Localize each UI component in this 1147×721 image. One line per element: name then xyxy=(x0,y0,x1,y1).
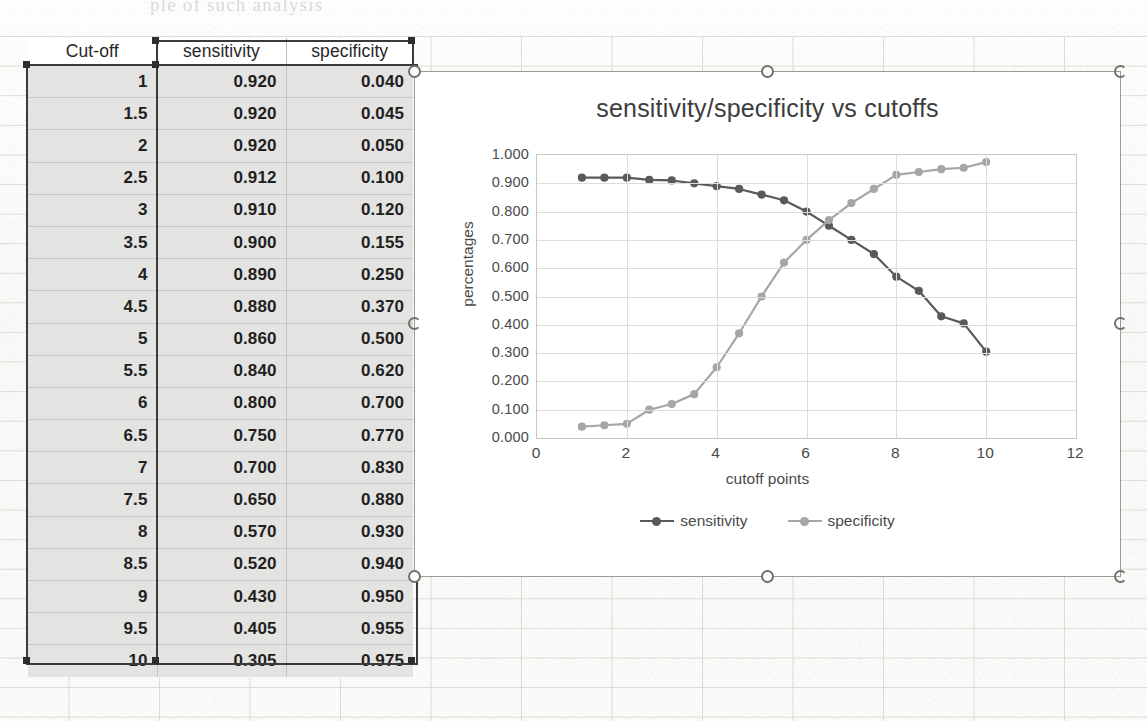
column-header-specificity[interactable]: specificity xyxy=(286,38,413,66)
cell-specificity[interactable]: 0.955 xyxy=(286,613,413,645)
cell-specificity[interactable]: 0.950 xyxy=(286,581,413,613)
cell-sensitivity[interactable]: 0.700 xyxy=(157,452,286,484)
cell-sensitivity[interactable]: 0.405 xyxy=(157,613,286,645)
column-header-cutoff[interactable]: Cut-off xyxy=(28,38,157,66)
chart-legend[interactable]: sensitivityspecificity xyxy=(415,512,1120,530)
table-row[interactable]: 40.8900.250 xyxy=(28,259,413,291)
cell-cutoff[interactable]: 1.5 xyxy=(28,98,157,130)
cell-cutoff[interactable]: 2.5 xyxy=(28,162,157,194)
cell-specificity[interactable]: 0.050 xyxy=(286,130,413,162)
cell-specificity[interactable]: 0.250 xyxy=(286,259,413,291)
cell-sensitivity[interactable]: 0.880 xyxy=(157,291,286,323)
cell-specificity[interactable]: 0.370 xyxy=(286,291,413,323)
table-row[interactable]: 70.7000.830 xyxy=(28,452,413,484)
table-row[interactable]: 5.50.8400.620 xyxy=(28,355,413,387)
cell-sensitivity[interactable]: 0.305 xyxy=(157,645,286,677)
table-row[interactable]: 8.50.5200.940 xyxy=(28,548,413,580)
chart-handle-top-center[interactable] xyxy=(761,65,774,78)
cell-sensitivity[interactable]: 0.920 xyxy=(157,98,286,130)
table-row[interactable]: 7.50.6500.880 xyxy=(28,484,413,516)
cell-cutoff[interactable]: 6 xyxy=(28,387,157,419)
cell-cutoff[interactable]: 10 xyxy=(28,645,157,677)
cell-specificity[interactable]: 0.975 xyxy=(286,645,413,677)
cell-cutoff[interactable]: 4.5 xyxy=(28,291,157,323)
cell-sensitivity[interactable]: 0.800 xyxy=(157,387,286,419)
cell-specificity[interactable]: 0.500 xyxy=(286,323,413,355)
cutoff-data-table[interactable]: Cut-off sensitivity specificity 10.9200.… xyxy=(28,38,413,677)
cell-cutoff[interactable]: 8.5 xyxy=(28,548,157,580)
table-row[interactable]: 100.3050.975 xyxy=(28,645,413,677)
cell-sensitivity[interactable]: 0.900 xyxy=(157,226,286,258)
cell-specificity[interactable]: 0.040 xyxy=(286,66,413,98)
cell-sensitivity[interactable]: 0.860 xyxy=(157,323,286,355)
cell-specificity[interactable]: 0.830 xyxy=(286,452,413,484)
table-row[interactable]: 9.50.4050.955 xyxy=(28,613,413,645)
cell-cutoff[interactable]: 7 xyxy=(28,452,157,484)
data-table-container[interactable]: Cut-off sensitivity specificity 10.9200.… xyxy=(28,38,413,677)
cell-sensitivity[interactable]: 0.912 xyxy=(157,162,286,194)
cell-specificity[interactable]: 0.100 xyxy=(286,162,413,194)
chart-handle-top-right[interactable] xyxy=(1114,65,1127,78)
selection-handle-bottom-right[interactable] xyxy=(408,657,415,664)
cell-sensitivity[interactable]: 0.890 xyxy=(157,259,286,291)
selection-handle-header-left[interactable] xyxy=(152,37,159,44)
cell-sensitivity[interactable]: 0.920 xyxy=(157,66,286,98)
table-row[interactable]: 60.8000.700 xyxy=(28,387,413,419)
cell-cutoff[interactable]: 2 xyxy=(28,130,157,162)
cell-sensitivity[interactable]: 0.920 xyxy=(157,130,286,162)
legend-item-sensitivity[interactable]: sensitivity xyxy=(640,512,747,530)
cell-specificity[interactable]: 0.120 xyxy=(286,194,413,226)
chart-handle-middle-left[interactable] xyxy=(408,317,421,330)
cell-cutoff[interactable]: 1 xyxy=(28,66,157,98)
cell-sensitivity[interactable]: 0.650 xyxy=(157,484,286,516)
chart-handle-bottom-left[interactable] xyxy=(408,570,421,583)
cell-cutoff[interactable]: 3 xyxy=(28,194,157,226)
cell-specificity[interactable]: 0.620 xyxy=(286,355,413,387)
cell-cutoff[interactable]: 8 xyxy=(28,516,157,548)
cell-specificity[interactable]: 0.155 xyxy=(286,226,413,258)
table-row[interactable]: 2.50.9120.100 xyxy=(28,162,413,194)
selection-handle-top-left[interactable] xyxy=(23,61,30,68)
table-row[interactable]: 90.4300.950 xyxy=(28,581,413,613)
selection-handle-mid-left[interactable] xyxy=(152,61,159,68)
table-row[interactable]: 3.50.9000.155 xyxy=(28,226,413,258)
cell-cutoff[interactable]: 9 xyxy=(28,581,157,613)
table-row[interactable]: 50.8600.500 xyxy=(28,323,413,355)
cell-specificity[interactable]: 0.880 xyxy=(286,484,413,516)
cell-cutoff[interactable]: 6.5 xyxy=(28,420,157,452)
cell-sensitivity[interactable]: 0.430 xyxy=(157,581,286,613)
table-row[interactable]: 1.50.9200.045 xyxy=(28,98,413,130)
table-row[interactable]: 10.9200.040 xyxy=(28,66,413,98)
cell-cutoff[interactable]: 5 xyxy=(28,323,157,355)
cell-cutoff[interactable]: 3.5 xyxy=(28,226,157,258)
table-row[interactable]: 20.9200.050 xyxy=(28,130,413,162)
cell-sensitivity[interactable]: 0.750 xyxy=(157,420,286,452)
selection-handle-bottom-left[interactable] xyxy=(23,657,30,664)
cell-specificity[interactable]: 0.700 xyxy=(286,387,413,419)
cell-sensitivity[interactable]: 0.520 xyxy=(157,548,286,580)
chart-handle-middle-right[interactable] xyxy=(1114,317,1127,330)
cell-specificity[interactable]: 0.045 xyxy=(286,98,413,130)
selection-handle-bottom-mid[interactable] xyxy=(152,657,159,664)
chart-object[interactable]: sensitivity/specificity vs cutoffs 0.000… xyxy=(414,71,1121,577)
chart-handle-bottom-right[interactable] xyxy=(1114,570,1127,583)
cell-cutoff[interactable]: 4 xyxy=(28,259,157,291)
legend-item-specificity[interactable]: specificity xyxy=(788,512,895,530)
selection-handle-header-right[interactable] xyxy=(408,37,415,44)
column-header-sensitivity[interactable]: sensitivity xyxy=(157,38,286,66)
cell-sensitivity[interactable]: 0.910 xyxy=(157,194,286,226)
chart-handle-bottom-center[interactable] xyxy=(761,570,774,583)
cell-cutoff[interactable]: 5.5 xyxy=(28,355,157,387)
chart-handle-top-left[interactable] xyxy=(408,65,421,78)
cell-sensitivity[interactable]: 0.840 xyxy=(157,355,286,387)
cell-specificity[interactable]: 0.940 xyxy=(286,548,413,580)
table-row[interactable]: 80.5700.930 xyxy=(28,516,413,548)
cell-specificity[interactable]: 0.930 xyxy=(286,516,413,548)
plot-area[interactable] xyxy=(536,154,1077,439)
cell-cutoff[interactable]: 9.5 xyxy=(28,613,157,645)
table-row[interactable]: 6.50.7500.770 xyxy=(28,420,413,452)
table-row[interactable]: 4.50.8800.370 xyxy=(28,291,413,323)
table-row[interactable]: 30.9100.120 xyxy=(28,194,413,226)
cell-cutoff[interactable]: 7.5 xyxy=(28,484,157,516)
cell-specificity[interactable]: 0.770 xyxy=(286,420,413,452)
